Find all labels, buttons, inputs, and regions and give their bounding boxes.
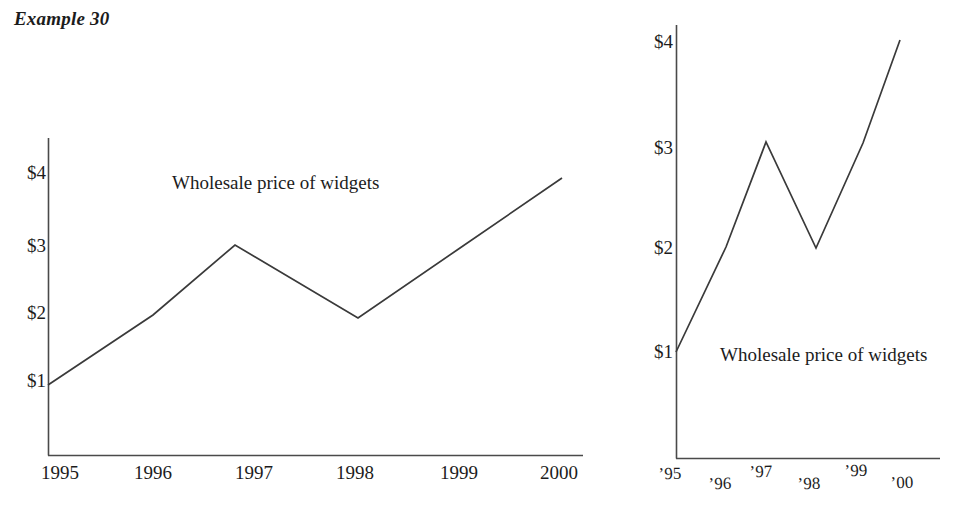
chart-title: Wholesale price of widgets bbox=[720, 344, 927, 366]
x-tick-label-1998: 1998 bbox=[317, 462, 393, 484]
x-tick-label-2000: 2000 bbox=[521, 462, 597, 484]
x-tick-label-1999: 1999 bbox=[421, 462, 497, 484]
y-tick-label-1: $1 bbox=[620, 341, 673, 363]
y-tick-label-4: $4 bbox=[0, 162, 46, 184]
figure-page: Example 30 $4 $3 $2 $1 1995 1996 1997 19… bbox=[0, 0, 965, 509]
x-tick-label-00: ’00 bbox=[875, 472, 930, 494]
y-tick-label-3: $3 bbox=[620, 137, 673, 159]
chart-wide-aspect: $4 $3 $2 $1 1995 1996 1997 1998 1999 200… bbox=[0, 0, 610, 509]
data-line bbox=[48, 178, 562, 385]
y-tick-label-2: $2 bbox=[0, 302, 46, 324]
x-tick-label-95: ’95 bbox=[643, 463, 698, 485]
x-tick-label-1995: 1995 bbox=[22, 462, 98, 484]
x-tick-label-98: ’98 bbox=[782, 473, 837, 495]
chart-tall-aspect: $4 $3 $2 $1 ’95 ’96 ’97 ’98 ’99 ’00 Whol… bbox=[610, 0, 965, 509]
y-tick-label-3: $3 bbox=[0, 235, 46, 257]
data-line bbox=[676, 40, 900, 352]
y-tick-label-2: $2 bbox=[620, 237, 673, 259]
x-tick-label-1997: 1997 bbox=[216, 462, 292, 484]
x-tick-label-97: ’97 bbox=[734, 461, 789, 483]
x-tick-label-1996: 1996 bbox=[115, 462, 191, 484]
y-tick-label-4: $4 bbox=[620, 31, 673, 53]
chart-title: Wholesale price of widgets bbox=[172, 172, 379, 194]
y-tick-label-1: $1 bbox=[0, 370, 46, 392]
chart-wide-aspect-canvas bbox=[0, 0, 610, 509]
